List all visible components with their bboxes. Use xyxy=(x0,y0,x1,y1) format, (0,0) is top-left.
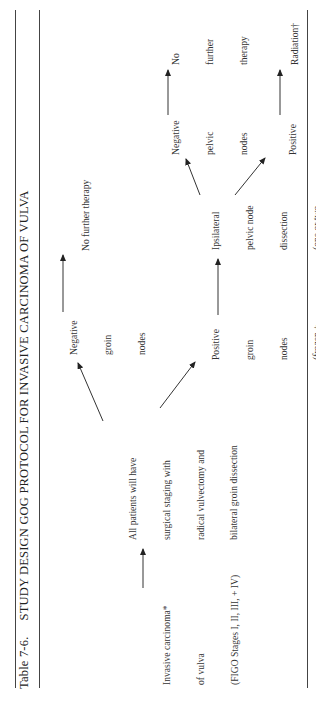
flow-arrows xyxy=(0,0,316,711)
arrow-dissection-to-negative-pelvic xyxy=(186,159,200,195)
arrow-staging-to-positive-groin xyxy=(160,362,195,408)
arrow-staging-to-negative-groin xyxy=(78,363,103,421)
arrow-dissection-to-positive-pelvic xyxy=(235,158,265,195)
rotated-table-page: Table 7-6.STUDY DESIGN GOG PROTOCOL FOR … xyxy=(0,0,316,711)
